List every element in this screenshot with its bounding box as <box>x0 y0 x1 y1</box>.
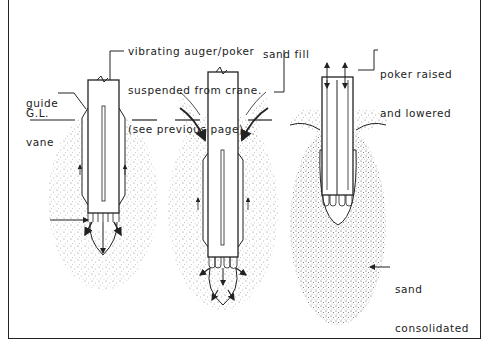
label-ground-level: G.L. <box>26 107 49 120</box>
label-auger: vibrating auger/poker suspended from cra… <box>128 19 262 149</box>
label-sand-fill: sand fill <box>263 48 309 61</box>
stage-3 <box>288 63 388 325</box>
label-poker-raised: poker raised and lowered <box>380 42 452 133</box>
label-sand-consolidated: sand consolidated <box>395 257 469 344</box>
